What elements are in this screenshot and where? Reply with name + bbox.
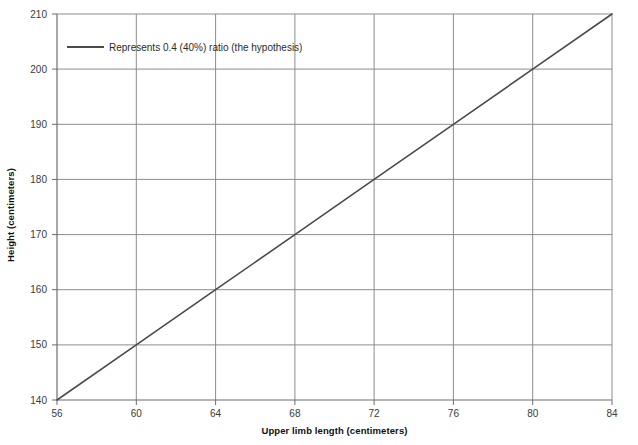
y-tick-label-160: 160 (30, 284, 47, 295)
x-tick-label-60: 60 (131, 408, 143, 419)
x-tick-label-56: 56 (51, 408, 63, 419)
chart-background (0, 0, 638, 445)
x-tick-label-84: 84 (606, 408, 618, 419)
x-tick-label-68: 68 (289, 408, 301, 419)
chart-container: 140 150 160 170 180 190 200 210 56 60 64… (0, 0, 638, 445)
y-tick-label-150: 150 (30, 339, 47, 350)
x-tick-label-76: 76 (448, 408, 460, 419)
y-tick-label-170: 170 (30, 229, 47, 240)
y-tick-label-190: 190 (30, 119, 47, 130)
y-tick-label-200: 200 (30, 64, 47, 75)
y-axis-title: Height (centimeters) (5, 168, 16, 262)
x-tick-label-80: 80 (527, 408, 539, 419)
y-tick-label-210: 210 (30, 9, 47, 20)
y-tick-label-180: 180 (30, 174, 47, 185)
line-chart: 140 150 160 170 180 190 200 210 56 60 64… (0, 0, 638, 445)
y-tick-label-140: 140 (30, 395, 47, 406)
x-tick-label-72: 72 (369, 408, 381, 419)
x-tick-label-64: 64 (210, 408, 222, 419)
legend-entry-label: Represents 0.4 (40%) ratio (the hypothes… (109, 42, 302, 53)
x-axis-title: Upper limb length (centimeters) (261, 425, 407, 436)
